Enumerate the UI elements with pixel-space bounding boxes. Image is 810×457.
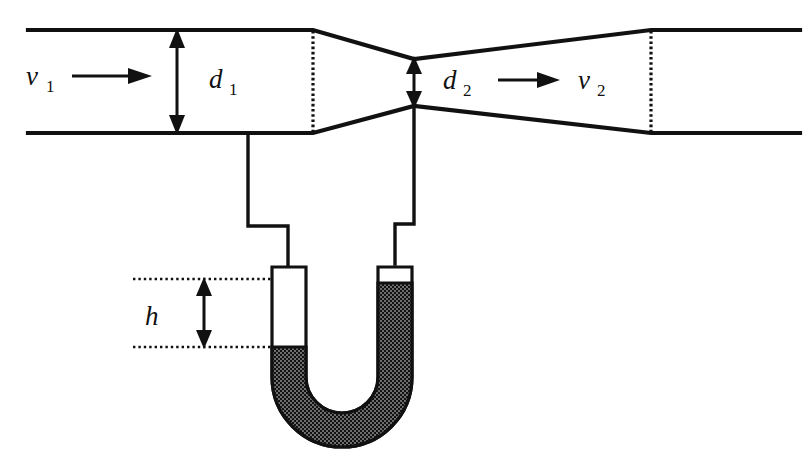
label-manometer-height: h <box>145 301 159 331</box>
label-inlet-velocity-subscript: 1 <box>46 77 55 96</box>
label-throat-velocity-subscript: 2 <box>597 81 606 100</box>
pressure-tap-throat <box>395 104 414 264</box>
figure-labels: v 1 d 1 d 2 v 2 h <box>26 61 606 331</box>
label-inlet-velocity: v <box>26 61 38 91</box>
inlet-diameter-dimension <box>169 28 185 135</box>
label-throat-diameter-subscript: 2 <box>463 81 472 100</box>
label-throat-diameter: d <box>443 65 457 95</box>
inlet-velocity-arrow <box>72 68 152 84</box>
throat-velocity-arrow <box>498 72 560 88</box>
venturi-meter-diagram: v 1 d 1 d 2 v 2 h <box>0 0 810 457</box>
label-inlet-diameter-subscript: 1 <box>229 80 238 99</box>
throat-diameter-dimension <box>406 56 422 109</box>
label-inlet-diameter: d <box>209 64 223 94</box>
pipe-top-wall <box>28 30 800 59</box>
manometer-height-dimension <box>196 277 212 349</box>
pressure-tap-upstream <box>248 135 288 266</box>
figure-canvas: v 1 d 1 d 2 v 2 h <box>0 0 810 457</box>
label-throat-velocity: v <box>578 65 590 95</box>
manometer <box>272 267 412 447</box>
